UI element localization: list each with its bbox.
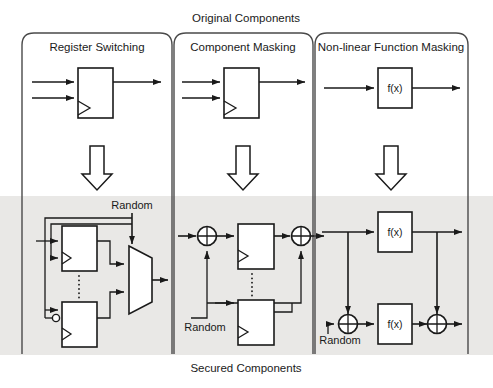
random-label-left: Random bbox=[111, 199, 153, 211]
inverter-bubble-icon bbox=[52, 314, 59, 321]
panel-title-component-masking: Component Masking bbox=[190, 41, 295, 53]
down-block-arrow bbox=[376, 146, 406, 190]
original-nonlinear-function: f(x) bbox=[324, 68, 460, 108]
original-register-switching bbox=[32, 68, 161, 118]
register-block-upper bbox=[238, 224, 274, 269]
down-block-arrow bbox=[228, 146, 258, 190]
figure-root: Original Components Secured Components R… bbox=[0, 0, 493, 388]
top-caption: Original Components bbox=[192, 12, 300, 24]
register-block-upper bbox=[62, 226, 97, 271]
panel-title-register-switching: Register Switching bbox=[49, 41, 144, 53]
function-block-lower-label: f(x) bbox=[387, 318, 402, 330]
random-label-right: Random bbox=[319, 334, 361, 346]
register-block-lower bbox=[238, 300, 274, 345]
register-block bbox=[78, 68, 113, 118]
register-block-lower bbox=[62, 302, 97, 347]
diagram-canvas: Original Components Secured Components R… bbox=[0, 0, 493, 388]
panel-title-nonlinear-function-masking: Non-linear Function Masking bbox=[318, 41, 464, 53]
original-component-masking bbox=[182, 68, 305, 118]
multiplexer-block bbox=[129, 246, 152, 314]
register-block bbox=[224, 68, 259, 118]
bottom-caption: Secured Components bbox=[190, 362, 301, 374]
function-block-label: f(x) bbox=[387, 82, 402, 94]
random-label-middle: Random bbox=[184, 321, 226, 333]
function-block-upper-label: f(x) bbox=[387, 226, 402, 238]
down-block-arrow bbox=[82, 146, 112, 190]
